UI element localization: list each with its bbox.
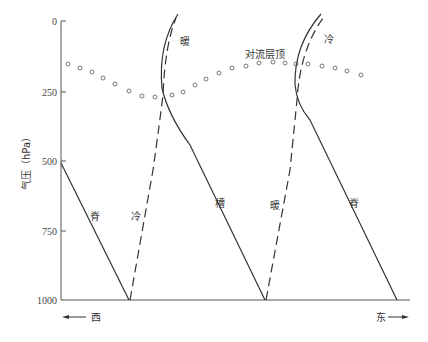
y-tick-0: 0 (52, 16, 57, 27)
ridge-solid-curve-right (295, 14, 397, 300)
y-tick-250: 250 (42, 87, 57, 98)
arrow-right-icon (402, 315, 409, 319)
y-tick-500: 500 (42, 156, 57, 167)
label-cold-bottom: 冷 (131, 210, 141, 222)
label-cold-top: 冷 (324, 33, 334, 45)
y-ticks: 0 250 500 750 1000 (37, 16, 66, 306)
label-west: 西 (91, 312, 101, 323)
tropopause-dotted-line (66, 60, 363, 99)
label-warm-top: 暖 (180, 35, 190, 47)
cold-front-dashed-left (130, 18, 176, 300)
west-arrow: 西 (62, 312, 101, 323)
arrow-left-icon (62, 315, 69, 319)
y-tick-750: 750 (42, 226, 57, 237)
label-warm-bottom: 暖 (270, 199, 280, 211)
label-ridge-left: 脊 (90, 210, 100, 222)
label-east: 东 (376, 311, 386, 323)
label-trough: 槽 (215, 197, 225, 209)
label-ridge-right: 脊 (349, 197, 359, 209)
ridge-line-left (61, 163, 129, 300)
east-arrow: 东 (376, 311, 409, 323)
label-tropopause: 对流层顶 (245, 48, 285, 60)
y-axis-label: 气压（hPa） (20, 132, 32, 190)
y-tick-1000: 1000 (37, 295, 57, 306)
pressure-cross-section-diagram: 0 250 500 750 1000 气压（hPa） (0, 0, 428, 342)
